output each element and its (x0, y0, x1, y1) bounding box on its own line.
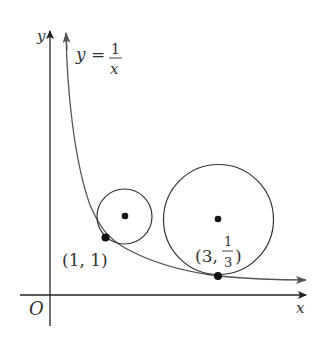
diagram-canvas: y x O y = 1 x (1, 1) (3, 1 3 ) (0, 0, 330, 349)
y-axis-label: y (36, 27, 46, 45)
point-3-third-suffix: ) (235, 246, 242, 266)
hyperbola-curve (66, 33, 306, 280)
point-3-third (214, 272, 222, 280)
point-3-third-den: 3 (224, 255, 232, 270)
large-circle-center (215, 216, 222, 223)
small-circle-center (122, 213, 129, 220)
x-axis-label: x (296, 299, 305, 317)
equation-denominator: x (110, 60, 119, 78)
point-3-third-prefix: (3, (195, 246, 218, 266)
origin-label: O (29, 298, 44, 319)
point-3-third-num: 1 (224, 234, 232, 249)
point-1-1 (102, 234, 110, 242)
equation-numerator: 1 (111, 41, 120, 57)
point-1-1-label: (1, 1) (62, 250, 108, 270)
equation-lhs: y = (75, 44, 105, 64)
